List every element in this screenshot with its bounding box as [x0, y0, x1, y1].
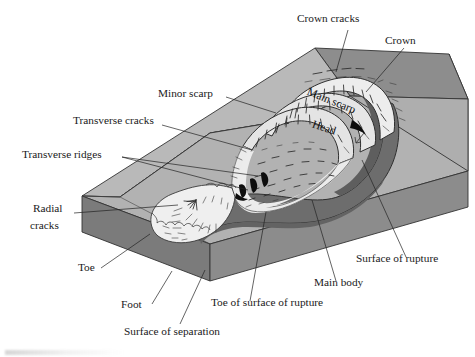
label-minor-scarp: Minor scarp	[158, 87, 213, 99]
label-surface-of-separation: Surface of separation	[124, 325, 220, 337]
label-crown: Crown	[385, 34, 416, 46]
label-crown-cracks: Crown cracks	[297, 12, 359, 24]
label-transverse-cracks: Transverse cracks	[73, 114, 154, 126]
label-transverse-ridges: Transverse ridges	[22, 148, 102, 160]
surface-of-separation-leader	[180, 270, 205, 324]
label-surface-of-rupture: Surface of rupture	[356, 252, 438, 264]
label-radial-cracks-line1: Radial	[33, 202, 63, 214]
landslide-block-diagram: Crown cracks Crown Minor scarp Transvers…	[0, 0, 475, 357]
figure-canvas: Crown cracks Crown Minor scarp Transvers…	[0, 0, 475, 357]
ground-block	[82, 48, 468, 281]
page-bottom-artifact	[5, 350, 125, 355]
foot-leader	[152, 271, 172, 304]
label-foot: Foot	[121, 298, 143, 310]
label-toe-of-surface-of-rupture: Toe of surface of rupture	[211, 296, 323, 308]
label-radial-cracks-line2: cracks	[30, 219, 59, 231]
label-toe: Toe	[78, 261, 95, 273]
label-main-body: Main body	[314, 276, 364, 288]
